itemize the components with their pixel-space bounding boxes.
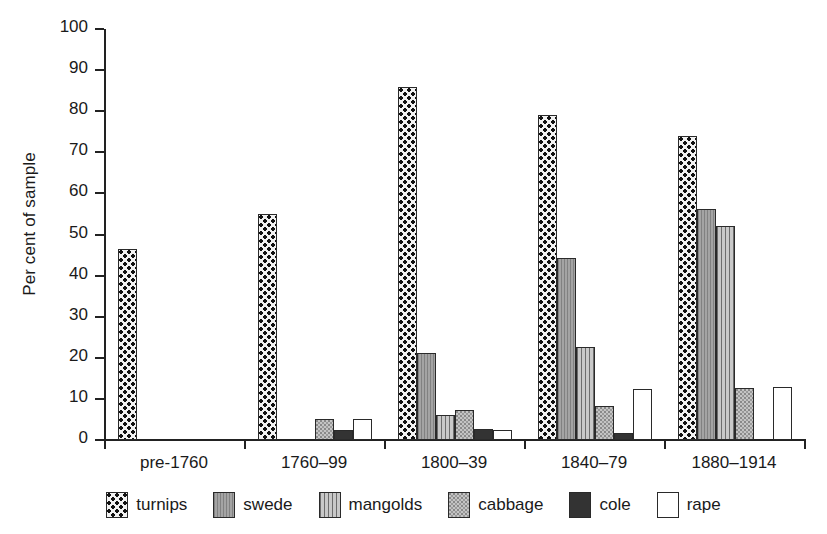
bar-swede [417,353,436,440]
bar-cabbage [455,410,474,440]
legend-swatch-swede-icon [213,492,235,518]
x-axis-tick-mark [524,439,526,449]
bar-turnips [258,214,277,440]
legend-label: swede [243,495,292,515]
y-axis-tick-label: 100 [18,17,88,37]
bar-group-bars [118,29,232,440]
legend-item-turnips[interactable]: turnips [106,492,187,518]
y-axis-tick-label: 30 [18,305,88,325]
bar-group-bars [678,29,792,440]
x-axis-tick-mark [804,439,806,449]
x-axis-tick-mark [384,439,386,449]
x-axis-category-label: 1880–1914 [664,453,804,473]
bar-mangolds [436,415,455,440]
y-axis-tick-mark [95,151,104,153]
x-axis-category-label: 1800–39 [384,453,524,473]
legend-label: turnips [136,495,187,515]
legend-label: cabbage [478,495,543,515]
chart-legend: turnipsswedemangoldscabbagecolerape [0,492,827,518]
y-axis-tick-label: 10 [18,387,88,407]
bar-swede [697,209,716,440]
bar-group [538,29,652,440]
bar-swede [557,258,576,440]
x-axis-tick-mark [664,439,666,449]
legend-item-swede[interactable]: swede [213,492,292,518]
legend-swatch-rape-icon [657,492,679,518]
bar-turnips [118,249,137,440]
bar-cole [334,430,353,440]
plot-area [104,29,804,440]
bar-turnips [678,136,697,440]
x-axis-tick-mark [244,439,246,449]
legend-label: cole [599,495,630,515]
bar-cabbage [315,419,334,440]
legend-swatch-mangolds-icon [319,492,341,518]
legend-item-cole[interactable]: cole [569,492,630,518]
legend-label: rape [687,495,721,515]
x-axis-category-label: pre-1760 [104,453,244,473]
bar-rape [353,419,372,440]
bar-cole [474,429,493,441]
bar-group [258,29,372,440]
y-axis-tick-mark [95,316,104,318]
bar-turnips [398,87,417,440]
bar-mangolds [576,347,595,440]
bar-turnips [538,115,557,440]
bar-group [678,29,792,440]
bar-cabbage [595,406,614,440]
x-axis-category-label: 1760–99 [244,453,384,473]
bar-group [118,29,232,440]
bar-mangolds [716,226,735,440]
y-axis-tick-label: 70 [18,140,88,160]
y-axis-tick-label: 20 [18,346,88,366]
y-axis-tick-label: 0 [18,428,88,448]
y-axis-tick-mark [95,110,104,112]
legend-swatch-cabbage-icon [448,492,470,518]
x-axis-tick-mark [104,439,106,449]
bar-group-bars [258,29,372,440]
bar-cabbage [735,388,754,440]
y-axis-tick-label: 60 [18,181,88,201]
y-axis-tick-mark [95,192,104,194]
y-axis-tick-label: 90 [18,58,88,78]
bar-cole [614,433,633,440]
y-axis-tick-mark [95,69,104,71]
bar-rape [773,387,792,440]
y-axis-tick-mark [95,28,104,30]
y-axis-tick-label: 80 [18,99,88,119]
legend-item-mangolds[interactable]: mangolds [319,492,423,518]
y-axis-tick-mark [95,234,104,236]
bar-rape [493,430,512,440]
y-axis-tick-mark [95,398,104,400]
x-axis-category-label: 1840–79 [524,453,664,473]
legend-swatch-cole-icon [569,492,591,518]
y-axis-tick-mark [95,357,104,359]
y-axis-tick-label: 50 [18,223,88,243]
legend-swatch-turnips-icon [106,492,128,518]
y-axis-tick-mark [95,275,104,277]
bar-group-bars [398,29,512,440]
legend-item-cabbage[interactable]: cabbage [448,492,543,518]
bar-chart-figure: Per cent of sample 010203040506070809010… [0,0,827,534]
legend-label: mangolds [349,495,423,515]
y-axis-tick-label: 40 [18,264,88,284]
bar-group [398,29,512,440]
y-axis-tick-mark [95,439,104,441]
legend-item-rape[interactable]: rape [657,492,721,518]
bar-rape [633,389,652,440]
bar-group-bars [538,29,652,440]
